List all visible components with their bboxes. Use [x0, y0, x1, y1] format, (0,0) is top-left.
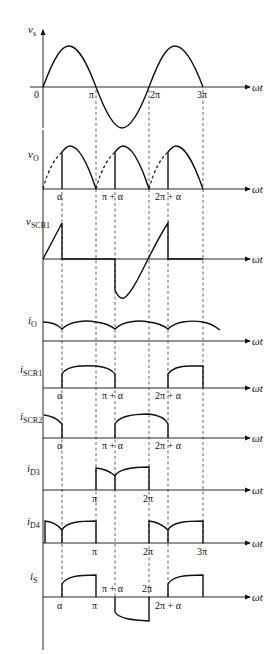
svg-text:2π: 2π	[142, 583, 152, 594]
tick-0: 0	[34, 89, 39, 100]
svg-text:2π + α: 2π + α	[155, 191, 182, 202]
svg-text:α: α	[57, 440, 63, 451]
svg-text:π: π	[92, 493, 97, 504]
label-is: iS	[30, 570, 38, 585]
panel-iscr2: iSCR2 ωt α π + α 2π + α	[20, 410, 264, 451]
panel-id3: iD3 ωt π 2π	[27, 462, 264, 504]
label-vscr1: vSCR1	[26, 215, 50, 230]
panel-vo: vO ωt α π + α 2π + α	[28, 130, 264, 650]
svg-text:π + α: π + α	[102, 191, 124, 202]
tick-2pi: 2π	[150, 89, 160, 100]
svg-text:π + α: π + α	[102, 583, 124, 594]
panel-io: iO ωt	[28, 314, 264, 347]
x-axis-label: ωt	[252, 81, 264, 93]
label-id4: iD4	[27, 515, 40, 530]
svg-text:ωt: ωt	[252, 591, 264, 603]
waveform-diagram: vs ωt 0 π 2π 3π vO ωt α π + α 2π + α vSC…	[0, 0, 277, 654]
svg-text:2π + α: 2π + α	[155, 390, 182, 401]
svg-text:2π: 2π	[143, 493, 153, 504]
svg-text:π + α: π + α	[102, 440, 124, 451]
svg-text:2π + α: 2π + α	[155, 440, 182, 451]
panel-vs: vs ωt 0 π 2π 3π	[28, 23, 264, 128]
label-vo: vO	[28, 148, 39, 163]
label-id3: iD3	[27, 462, 40, 477]
label-iscr1: iSCR1	[20, 363, 42, 378]
panel-id4: iD4 ωt π 2π 3π	[27, 515, 264, 557]
svg-text:ωt: ωt	[252, 382, 264, 394]
label-iscr2: iSCR2	[20, 410, 42, 425]
svg-text:ωt: ωt	[252, 335, 264, 347]
svg-text:ωt: ωt	[252, 537, 264, 549]
svg-text:ωt: ωt	[252, 484, 264, 496]
svg-text:ωt: ωt	[252, 253, 264, 265]
panel-iscr1: iSCR1 ωt α π + α 2π + α	[20, 363, 264, 401]
svg-text:α: α	[57, 191, 63, 202]
tick-pi: π	[89, 89, 94, 100]
svg-text:π: π	[92, 546, 97, 557]
tick-3pi: 3π	[197, 89, 207, 100]
svg-text:α: α	[57, 390, 63, 401]
svg-text:π + α: π + α	[102, 390, 124, 401]
label-io: iO	[28, 314, 37, 329]
svg-text:ωt: ωt	[252, 183, 264, 195]
svg-text:α: α	[57, 600, 63, 611]
svg-text:3π: 3π	[197, 546, 207, 557]
dashed-guides	[62, 90, 203, 600]
svg-text:2π + α: 2π + α	[155, 600, 182, 611]
svg-text:2π: 2π	[143, 546, 153, 557]
svg-text:π: π	[92, 600, 97, 611]
label-vs: vs	[28, 23, 36, 38]
svg-text:ωt: ωt	[252, 432, 264, 444]
panel-is: iS ωt α π π + α 2π 2π + α	[30, 570, 264, 621]
